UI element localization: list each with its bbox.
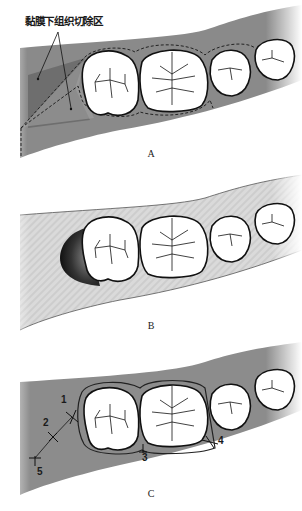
suture-label-3: 3 — [142, 452, 148, 463]
panel-label-b: B — [0, 320, 302, 331]
panel-b: B — [0, 170, 302, 340]
premolar-2 — [255, 40, 294, 80]
panel-b-illustration — [0, 170, 302, 340]
molar-1 — [84, 388, 139, 450]
panel-label-c: C — [0, 488, 302, 499]
panel-label-a: A — [0, 148, 302, 159]
premolar-2 — [255, 370, 294, 410]
molar-1 — [82, 217, 139, 281]
premolar-1 — [210, 50, 250, 96]
panel-a: 黏膜下组织切除区 A — [0, 0, 302, 170]
molar-2 — [140, 385, 208, 447]
premolar-1 — [210, 216, 250, 262]
suture-label-2: 2 — [43, 417, 49, 428]
premolar-2 — [255, 204, 294, 244]
molar-2 — [140, 50, 208, 111]
molar-2 — [140, 216, 208, 277]
suture-label-4: 4 — [218, 435, 224, 446]
premolar-1 — [210, 384, 250, 430]
panel-c: 1 2 3 4 5 C — [0, 340, 302, 511]
suture-label-5: 5 — [37, 466, 43, 477]
suture-label-1: 1 — [61, 394, 67, 405]
callout-label: 黏膜下组织切除区 — [25, 13, 103, 28]
molar-1 — [82, 51, 139, 115]
